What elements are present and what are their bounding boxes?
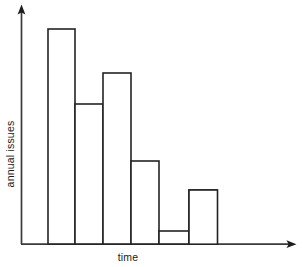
bar-2 — [75, 104, 103, 244]
bar-1 — [48, 29, 75, 244]
x-axis-label: time — [0, 251, 256, 263]
bar-4 — [131, 161, 159, 244]
y-axis — [18, 5, 26, 245]
bar-5 — [159, 231, 189, 244]
bar-3 — [103, 73, 131, 244]
chart-canvas — [0, 0, 303, 267]
bar-series — [48, 29, 218, 244]
bar-7 — [189, 190, 218, 244]
histogram-figure: time annual issues — [0, 0, 303, 267]
y-axis-label: annual issues — [4, 106, 16, 202]
